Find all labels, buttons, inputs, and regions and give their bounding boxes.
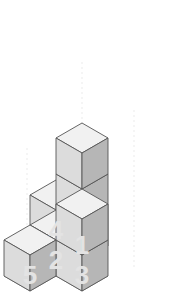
grid-cell-label-5: 5 <box>23 260 37 290</box>
grid-cell-label-1: 1 <box>75 230 89 260</box>
isometric-puzzle-scene: 41235 <box>0 0 181 305</box>
isometric-canvas: 41235 <box>0 0 181 305</box>
grid-cell-label-3: 3 <box>75 260 89 290</box>
grid-cell-label-4: 4 <box>49 215 64 245</box>
grid-cell-label-2: 2 <box>49 245 63 275</box>
